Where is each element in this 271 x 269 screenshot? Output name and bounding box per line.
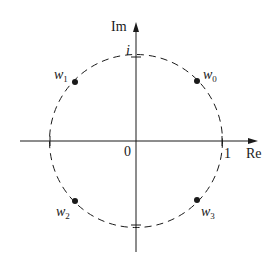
diagram-graphics: [0, 0, 271, 269]
real-axis-arrow-icon: [248, 138, 258, 144]
label-w1: w1: [54, 68, 68, 84]
point-w0: [194, 78, 200, 84]
point-w2: [72, 198, 78, 204]
imaginary-axis-arrow-icon: [133, 22, 139, 32]
real-axis-label: Re: [246, 147, 262, 161]
point-w3: [194, 197, 200, 203]
tick-label-1: 1: [224, 147, 231, 161]
label-w0: w0: [203, 68, 217, 84]
label-w3: w3: [201, 205, 215, 221]
origin-label: 0: [124, 145, 131, 159]
point-w1: [72, 79, 78, 85]
label-w2: w2: [56, 205, 70, 221]
imaginary-axis-label: Im: [111, 20, 127, 34]
complex-plane-diagram: Im i Re 1 0 w0 w1 w2 w3: [0, 0, 271, 269]
tick-label-i: i: [126, 44, 130, 58]
